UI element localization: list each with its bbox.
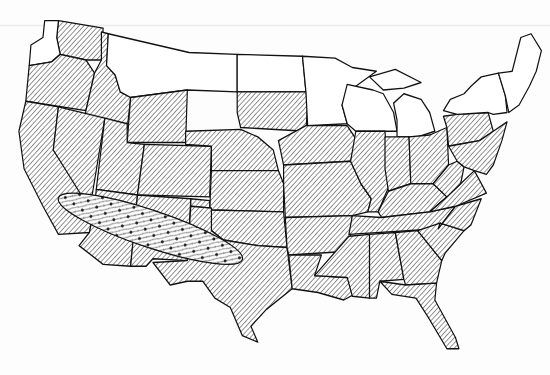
state-wi — [342, 84, 397, 131]
state-mt — [107, 34, 238, 98]
state-sd — [237, 92, 307, 131]
state-fl — [380, 281, 459, 349]
map-figure — [0, 0, 550, 375]
state-ia — [278, 126, 355, 165]
state-wa — [57, 21, 103, 60]
state-co — [138, 144, 212, 197]
state-wy — [127, 90, 187, 143]
us-map — [0, 0, 550, 375]
state-nd — [237, 54, 306, 92]
states-layer — [19, 21, 542, 349]
state-in — [385, 137, 411, 191]
state-ks — [210, 171, 284, 212]
state-ny — [443, 73, 507, 114]
